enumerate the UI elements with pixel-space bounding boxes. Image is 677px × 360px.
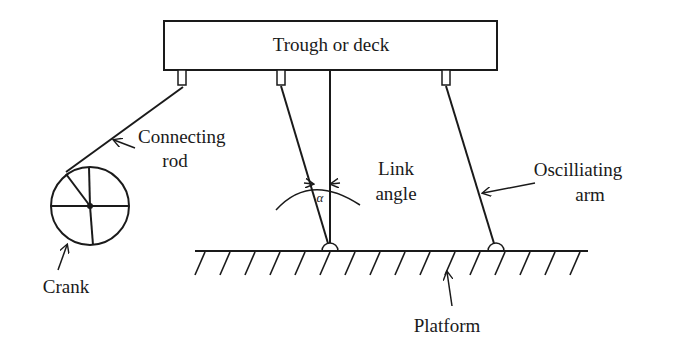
- left-oscillating-arm: [281, 86, 330, 250]
- pivots: [322, 243, 504, 251]
- oscillating-arm-label-line2: arm: [575, 184, 605, 205]
- platform-leader: [447, 272, 452, 306]
- trough-label: Trough or deck: [273, 34, 390, 55]
- connecting-rod-label-line2: rod: [162, 150, 188, 171]
- alpha-symbol: α: [317, 190, 325, 205]
- connecting-rod-label-line1: Connecting: [138, 126, 226, 147]
- connecting-rod-leader: [114, 140, 135, 148]
- platform: [195, 251, 588, 275]
- link-angle-label-line2: angle: [375, 183, 416, 204]
- bracket-lugs: [178, 70, 450, 85]
- crank-leader: [58, 245, 67, 270]
- link-angle-label-line1: Link: [378, 158, 414, 179]
- crank: [51, 167, 129, 245]
- right-oscillating-arm: [446, 86, 496, 250]
- platform-label: Platform: [414, 315, 481, 336]
- oscillating-arm-leader: [483, 183, 535, 193]
- oscillating-arm-label-line1: Oscilliating: [534, 159, 623, 180]
- crank-label: Crank: [43, 276, 90, 297]
- diagram-canvas: Trough or deck α: [0, 0, 677, 360]
- trough: Trough or deck: [164, 21, 497, 70]
